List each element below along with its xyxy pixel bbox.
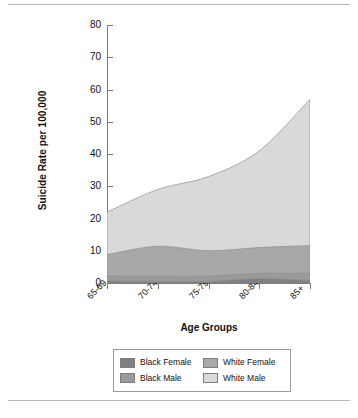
y-tick-label: 40	[61, 149, 101, 159]
legend-label: Black Male	[140, 374, 182, 383]
legend-item[interactable]: Black Male	[120, 373, 203, 383]
legend-swatch-icon	[120, 373, 135, 383]
y-tick-label: 30	[61, 181, 101, 191]
y-axis-title: Suicide Rate per 100,000	[37, 61, 48, 241]
chart-legend: Black FemaleWhite FemaleBlack MaleWhite …	[113, 349, 291, 392]
y-tick-label: 80	[61, 20, 101, 30]
legend-swatch-icon	[203, 373, 218, 383]
x-tick-label: 85+	[288, 283, 306, 301]
x-axis-title: Age Groups	[107, 322, 311, 333]
legend-item[interactable]: Black Female	[120, 358, 203, 368]
x-tick-mark	[310, 284, 311, 289]
bottom-divider	[8, 400, 350, 401]
y-tick-label: 50	[61, 117, 101, 127]
y-tick-label: 10	[61, 246, 101, 256]
legend-swatch-icon	[120, 358, 135, 368]
y-tick-label: 60	[61, 85, 101, 95]
y-tick-label: 70	[61, 52, 101, 62]
area-series-group	[107, 25, 310, 283]
plot-area	[107, 25, 310, 283]
legend-label: White Male	[223, 374, 266, 383]
figure-page: Suicide Rate per 100,000 010203040506070…	[0, 0, 358, 418]
legend-label: Black Female	[140, 358, 192, 367]
y-tick-label: 20	[61, 214, 101, 224]
legend-items: Black FemaleWhite FemaleBlack MaleWhite …	[120, 355, 286, 386]
legend-swatch-icon	[203, 358, 218, 368]
legend-item[interactable]: White Female	[203, 358, 286, 368]
legend-label: White Female	[223, 358, 275, 367]
stacked-area-chart: Suicide Rate per 100,000 010203040506070…	[0, 0, 358, 340]
legend-item[interactable]: White Male	[203, 373, 286, 383]
y-tick-mark	[108, 283, 113, 284]
